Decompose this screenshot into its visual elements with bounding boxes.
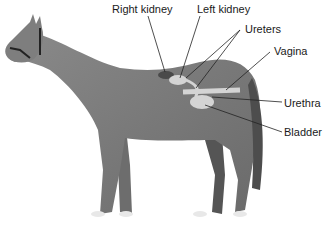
- hind-leg-far: [205, 135, 225, 214]
- hoof: [233, 211, 247, 217]
- label-urethra: Urethra: [284, 97, 321, 109]
- label-bladder: Bladder: [284, 126, 322, 138]
- label-right-kidney: Right kidney: [112, 3, 173, 15]
- hoof: [119, 211, 133, 217]
- label-left-kidney: Left kidney: [197, 3, 250, 15]
- hoof: [193, 211, 207, 217]
- label-vagina: Vagina: [274, 45, 307, 57]
- left-kidney: [169, 75, 187, 85]
- hoof: [91, 211, 105, 217]
- leader-right-kidney: [148, 16, 165, 72]
- label-ureters: Ureters: [245, 23, 281, 35]
- vagina: [183, 90, 240, 92]
